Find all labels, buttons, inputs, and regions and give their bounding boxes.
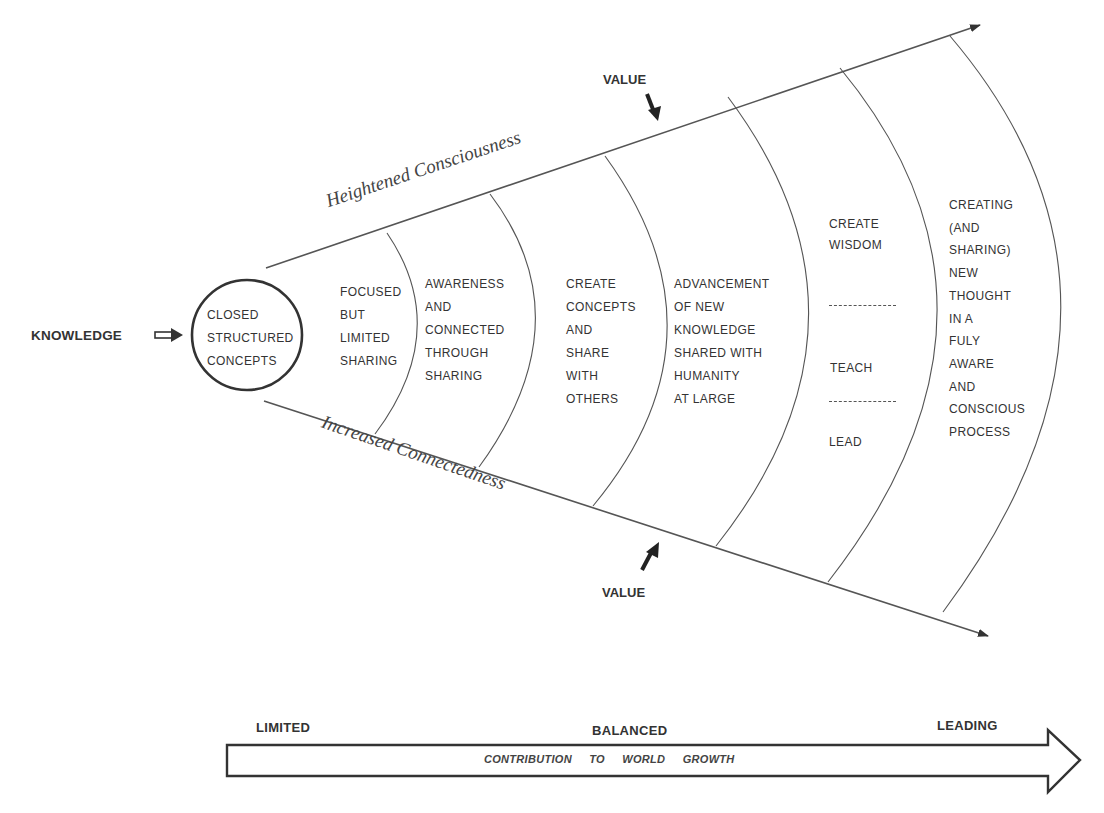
core-line-2: STRUCTURED xyxy=(207,327,294,350)
stage-3-line: WITH xyxy=(566,365,636,388)
knowledge-label: KNOWLEDGE xyxy=(31,324,122,347)
stage-4-line: ADVANCEMENT xyxy=(674,273,770,296)
stage-6-line: THOUGHT xyxy=(949,285,1025,308)
stage-1-line: BUT xyxy=(340,304,401,327)
stage-4-line: SHARED WITH xyxy=(674,342,770,365)
stage-4-line: AT LARGE xyxy=(674,388,770,411)
stage-6-line: PROCESS xyxy=(949,421,1025,444)
stage-1-line: FOCUSED xyxy=(340,281,401,304)
stage-5-line: WISDOM xyxy=(829,235,882,256)
stage-3-line: SHARE xyxy=(566,342,636,365)
value-label-bottom: VALUE xyxy=(602,585,645,600)
stage-3-text: CREATE CONCEPTS AND SHARE WITH OTHERS xyxy=(566,273,636,411)
stage-4-line: OF NEW xyxy=(674,296,770,319)
stage-3-line: OTHERS xyxy=(566,388,636,411)
stage-2-line: SHARING xyxy=(425,365,505,388)
stage-2-line: AND xyxy=(425,296,505,319)
stage-2-line: CONNECTED xyxy=(425,319,505,342)
core-concepts-text: CLOSED STRUCTURED CONCEPTS xyxy=(207,304,294,373)
stage-6-line: NEW xyxy=(949,262,1025,285)
fat-right-arrow-icon xyxy=(155,328,183,342)
value-arrow-down-icon xyxy=(647,94,661,121)
stage-1-line: SHARING xyxy=(340,350,401,373)
stage-6-line: AND xyxy=(949,376,1025,399)
stage-2-line: AWARENESS xyxy=(425,273,505,296)
stage-5-separator-1 xyxy=(829,305,896,306)
stage-6-text: CREATING (AND SHARING) NEW THOUGHT IN A … xyxy=(949,194,1025,444)
stage-3-line: AND xyxy=(566,319,636,342)
scale-balanced-label: BALANCED xyxy=(592,723,667,738)
scale-leading-label: LEADING xyxy=(937,718,998,733)
stage-6-line: CREATING xyxy=(949,194,1025,217)
stage-2-text: AWARENESS AND CONNECTED THROUGH SHARING xyxy=(425,273,505,388)
stage-1-line: LIMITED xyxy=(340,327,401,350)
stage-arc-5 xyxy=(828,68,937,582)
stage-5-teach: TEACH xyxy=(830,357,873,380)
stage-5-lead: LEAD xyxy=(829,431,862,454)
stage-5-create-wisdom: CREATE WISDOM xyxy=(829,214,882,256)
stage-6-line: FULY xyxy=(949,330,1025,353)
stage-5-line: CREATE xyxy=(829,214,882,235)
stage-3-line: CREATE xyxy=(566,273,636,296)
stage-5-separator-2 xyxy=(829,401,896,402)
stage-4-text: ADVANCEMENT OF NEW KNOWLEDGE SHARED WITH… xyxy=(674,273,770,411)
core-line-3: CONCEPTS xyxy=(207,350,294,373)
value-arrow-up-icon xyxy=(642,542,659,570)
stage-4-line: KNOWLEDGE xyxy=(674,319,770,342)
core-line-1: CLOSED xyxy=(207,304,294,327)
stage-6-line: SHARING) xyxy=(949,239,1025,262)
value-label-top: VALUE xyxy=(603,72,646,87)
stage-6-line: CONSCIOUS xyxy=(949,398,1025,421)
scale-limited-label: LIMITED xyxy=(256,720,310,735)
stage-2-line: THROUGH xyxy=(425,342,505,365)
diagram-canvas xyxy=(0,0,1104,813)
stage-4-line: HUMANITY xyxy=(674,365,770,388)
stage-6-line: (AND xyxy=(949,217,1025,240)
stage-6-line: IN A xyxy=(949,308,1025,331)
stage-3-line: CONCEPTS xyxy=(566,296,636,319)
stage-1-text: FOCUSED BUT LIMITED SHARING xyxy=(340,281,401,373)
contribution-to-world-growth-label: CONTRIBUTION TO WORLD GROWTH xyxy=(484,753,735,765)
stage-6-line: AWARE xyxy=(949,353,1025,376)
